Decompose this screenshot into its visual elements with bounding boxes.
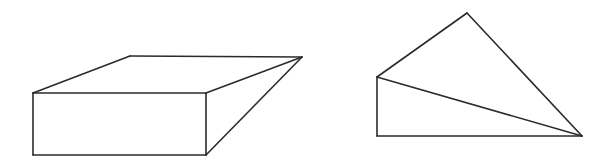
edge-left_upper-apex_top <box>377 13 467 77</box>
tetrahedron-wedge-figure <box>377 13 582 136</box>
edge-apex_top-right <box>467 13 582 136</box>
wedge-box-figure <box>33 56 302 155</box>
edge-front_top_right-apex_right <box>206 57 302 93</box>
edge-back_top_left-apex_right <box>130 56 302 57</box>
diagram-canvas <box>0 0 614 168</box>
geometry-figures <box>0 0 614 168</box>
edge-front_top_left-back_top_left <box>33 56 130 93</box>
edge-left_upper-right <box>377 77 582 136</box>
edge-front_bottom_right-apex_right <box>206 57 302 155</box>
